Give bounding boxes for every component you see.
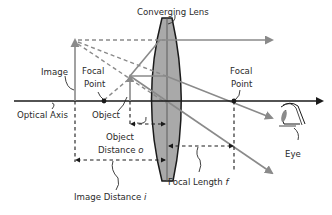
image-arrow: [71, 38, 80, 101]
object-distance-leader: [137, 117, 146, 123]
lens-label: Converging Lens: [137, 7, 209, 17]
focal-point-right-label-1: Focal: [230, 66, 252, 76]
eye-label: Eye: [285, 149, 301, 159]
focal-point-right-label-2: Point: [231, 79, 253, 89]
focal-point-left-label-1: Focal: [82, 66, 104, 76]
diagram-canvas: Converging Lens Image Focal Point Focal …: [0, 0, 332, 215]
image-distance-label: Image Distance i: [74, 192, 147, 202]
focal-length-leader: [197, 147, 201, 172]
optical-axis-leader: [52, 103, 54, 109]
focal-left-leader: [98, 92, 103, 99]
focal-length-label: Focal Length f: [168, 177, 230, 187]
focal-right-leader: [236, 90, 240, 99]
image-label: Image: [41, 67, 68, 77]
optical-axis-label: Optical Axis: [17, 110, 68, 120]
image-leader: [65, 76, 74, 90]
lens-diagram: Converging Lens Image Focal Point Focal …: [0, 0, 332, 215]
focal-point-left-label-2: Point: [84, 79, 106, 89]
object-leader: [118, 97, 127, 111]
focal-point-left: [102, 99, 107, 104]
object-distance-label-2: Distance o: [98, 145, 144, 155]
eye-leader: [294, 128, 299, 140]
converging-lens: [152, 18, 182, 181]
object-distance-label-1: Object: [106, 132, 135, 142]
virtual-ray-focal: [104, 78, 130, 100]
image-distance-leader: [112, 161, 118, 190]
eye-icon: [279, 103, 305, 126]
object-label: Object: [92, 110, 121, 120]
